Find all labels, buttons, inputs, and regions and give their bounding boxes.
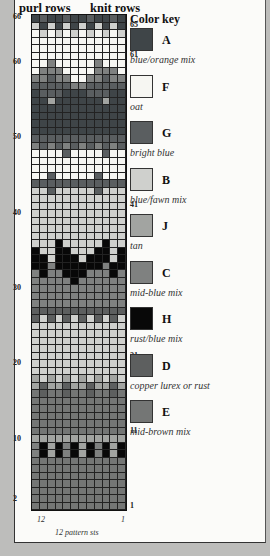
chart-cell: [110, 255, 118, 263]
color-swatch: [130, 121, 153, 144]
chart-cell: [56, 428, 64, 436]
chart-cell: [103, 458, 111, 466]
chart-cell: [95, 428, 103, 436]
chart-cell: [87, 323, 95, 331]
chart-cell: [87, 315, 95, 323]
color-letter: C: [162, 266, 171, 281]
chart-cell: [118, 225, 126, 233]
chart-cell: [95, 218, 103, 226]
chart-cell: [32, 30, 40, 38]
chart-cell: [48, 420, 56, 428]
chart-cell: [95, 203, 103, 211]
chart-cell: [110, 240, 118, 248]
chart-cell: [79, 285, 87, 293]
chart-cell: [63, 383, 71, 391]
chart-cell: [110, 68, 118, 76]
chart-cell: [95, 383, 103, 391]
chart-cell: [40, 195, 48, 203]
chart-cell: [48, 338, 56, 346]
chart-cell: [63, 30, 71, 38]
chart-cell: [118, 30, 126, 38]
chart-cell: [87, 248, 95, 256]
chart-cell: [71, 180, 79, 188]
chart-cell: [40, 75, 48, 83]
chart-cell: [48, 435, 56, 443]
chart-cell: [87, 420, 95, 428]
chart-cell: [110, 323, 118, 331]
chart-cell: [103, 488, 111, 496]
chart-cell: [63, 308, 71, 316]
chart-cell: [40, 420, 48, 428]
chart-cell: [40, 473, 48, 481]
chart-cell: [110, 83, 118, 91]
chart-cell: [79, 338, 87, 346]
chart-cell: [40, 53, 48, 61]
color-letter: D: [162, 359, 171, 374]
chart-cell: [56, 360, 64, 368]
chart-cell: [87, 368, 95, 376]
chart-cell: [103, 255, 111, 263]
chart-cell: [48, 488, 56, 496]
chart-cell: [79, 188, 87, 196]
chart-cell: [110, 368, 118, 376]
chart-cell: [110, 210, 118, 218]
chart-cell: [48, 383, 56, 391]
chart-cell: [63, 15, 71, 23]
chart-cell: [118, 240, 126, 248]
chart-cell: [48, 345, 56, 353]
chart-cell: [32, 308, 40, 316]
chart-cell: [56, 188, 64, 196]
chart-cell: [79, 270, 87, 278]
chart-cell: [95, 210, 103, 218]
chart-cell: [71, 420, 79, 428]
chart-cell: [79, 150, 87, 158]
chart-cell: [71, 503, 79, 511]
chart-cell: [79, 255, 87, 263]
chart-cell: [79, 473, 87, 481]
chart-cell: [40, 353, 48, 361]
chart-cell: [71, 83, 79, 91]
chart-cell: [32, 38, 40, 46]
chart-cell: [40, 240, 48, 248]
chart-cell: [63, 165, 71, 173]
chart-cell: [40, 360, 48, 368]
chart-cell: [40, 83, 48, 91]
chart-cell: [63, 240, 71, 248]
chart-cell: [56, 255, 64, 263]
chart-cell: [87, 83, 95, 91]
color-swatch: [130, 28, 153, 51]
chart-cell: [56, 53, 64, 61]
chart-cell: [118, 323, 126, 331]
color-swatch: [130, 75, 153, 98]
chart-cell: [56, 210, 64, 218]
chart-cell: [48, 360, 56, 368]
chart-cell: [48, 405, 56, 413]
chart-cell: [32, 233, 40, 241]
chart-cell: [40, 165, 48, 173]
chart-cell: [95, 450, 103, 458]
color-key-item: Cmid-blue mix: [130, 261, 250, 313]
chart-cell: [40, 428, 48, 436]
chart-cell: [71, 458, 79, 466]
chart-cell: [63, 473, 71, 481]
chart-cell: [56, 240, 64, 248]
chart-cell: [87, 158, 95, 166]
chart-cell: [48, 323, 56, 331]
chart-cell: [103, 143, 111, 151]
purl-row-label: 50: [13, 132, 21, 141]
chart-cell: [32, 180, 40, 188]
color-key-item: Ablue/orange mix: [130, 28, 250, 80]
chart-cell: [118, 83, 126, 91]
chart-cell: [118, 488, 126, 496]
chart-cell: [110, 285, 118, 293]
chart-cell: [118, 180, 126, 188]
chart-cell: [79, 405, 87, 413]
chart-cell: [118, 158, 126, 166]
chart-cell: [48, 83, 56, 91]
chart-cell: [40, 188, 48, 196]
color-description: mid-brown mix: [130, 426, 190, 437]
chart-cell: [118, 398, 126, 406]
chart-cell: [118, 90, 126, 98]
chart-cell: [79, 428, 87, 436]
chart-cell: [71, 360, 79, 368]
